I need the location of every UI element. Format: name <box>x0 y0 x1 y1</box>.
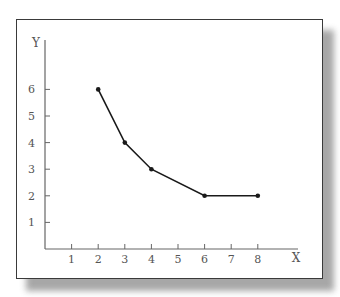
y-tick-label: 3 <box>28 163 35 176</box>
y-tick-label: 1 <box>28 216 35 229</box>
data-point-marker <box>96 87 101 92</box>
y-tick-label: 5 <box>28 110 35 123</box>
data-point-marker <box>123 140 128 145</box>
y-tick-label: 4 <box>28 137 35 150</box>
series-line <box>98 89 258 195</box>
x-tick-label: 8 <box>254 253 261 266</box>
x-tick-label: 5 <box>175 253 182 266</box>
data-point-marker <box>255 194 260 199</box>
x-tick-label: 3 <box>121 253 128 266</box>
y-axis-label: Y <box>31 36 41 50</box>
x-tick-label: 4 <box>148 253 155 266</box>
x-tick-label: 7 <box>228 253 235 266</box>
data-series <box>96 87 260 198</box>
x-tick-label: 2 <box>95 253 102 266</box>
y-tick-label: 2 <box>28 190 35 203</box>
data-point-marker <box>149 167 154 172</box>
x-tick-label: 1 <box>68 253 75 266</box>
axes <box>45 40 298 249</box>
x-axis-label: X <box>292 251 301 265</box>
line-chart: 12345678123456 X Y <box>0 0 340 297</box>
x-tick-label: 6 <box>201 253 208 266</box>
y-tick-label: 6 <box>28 83 35 96</box>
data-point-marker <box>202 194 207 199</box>
axis-ticks: 12345678123456 <box>28 83 261 266</box>
